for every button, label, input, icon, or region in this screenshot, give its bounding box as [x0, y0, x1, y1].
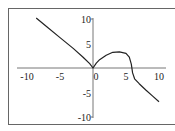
x-tick-label: 0 — [94, 71, 99, 82]
x-tick-label: -5 — [56, 71, 64, 82]
x-tick-label: 10 — [154, 71, 164, 82]
data-curve — [36, 18, 159, 102]
x-tick-label: 5 — [124, 71, 129, 82]
y-tick-label: -5 — [83, 88, 91, 99]
y-tick-label: 10 — [81, 14, 91, 25]
x-tick-label: -10 — [20, 71, 33, 82]
line-chart: -10-50510105-5-10 — [0, 0, 175, 131]
y-tick-label: 5 — [86, 39, 91, 50]
y-tick-label: -10 — [78, 112, 91, 123]
axes — [17, 18, 166, 118]
